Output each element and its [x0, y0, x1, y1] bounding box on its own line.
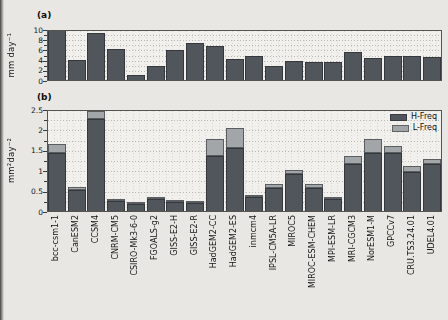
- y-minor-tick: [44, 35, 47, 36]
- l-freq-legend-label: L-Freq: [413, 123, 437, 133]
- bar-h-freq-UDEL4.01: [423, 164, 441, 212]
- bar-h-freq-CCSM4: [87, 119, 105, 212]
- bar-CSIRO-Mk3-6-0: [127, 75, 145, 81]
- bar-h-freq-HadGEM2-CC: [206, 156, 224, 212]
- bar-MPI-ESM-LR: [324, 62, 342, 81]
- bar-CCSM4: [87, 33, 105, 81]
- bar-l-freq-CCSM4: [87, 111, 105, 119]
- bar-FGOALS-g2: [147, 66, 165, 81]
- bar-l-freq-UDEL4.01: [423, 159, 441, 164]
- bar-l-freq-GISS-E2-R: [186, 201, 204, 203]
- bar-h-freq-CSIRO-Mk3-6-0: [127, 204, 145, 212]
- y-tick: [43, 40, 47, 41]
- y-tick: [43, 61, 47, 62]
- gridline: [48, 35, 441, 36]
- y-tick: [43, 50, 47, 51]
- x-tick-label-FGOALS-g2: FGOALS-g2: [150, 215, 160, 260]
- bar-h-freq-CNRM-CM5: [107, 201, 125, 212]
- x-tick-label-GPCCv7: GPCCv7: [387, 215, 397, 247]
- y-minor-tick: [44, 120, 47, 121]
- bar-h-freq-bcc-csm1-1: [48, 153, 66, 212]
- y-tick-label: 8: [3, 36, 43, 45]
- y-tick: [43, 71, 47, 72]
- bar-h-freq-HadGEM2-ES: [226, 148, 244, 212]
- bar-l-freq-MIROC5: [285, 170, 303, 174]
- bar-l-freq-MRI-CGCM3: [344, 156, 362, 164]
- bar-NorESM1-M: [364, 58, 382, 81]
- gridline: [48, 192, 441, 193]
- x-tick-label-MPI-ESM-LR: MPI-ESM-LR: [328, 215, 338, 262]
- x-tick-label-HadGEM2-ES: HadGEM2-ES: [229, 215, 239, 267]
- bar-h-freq-CRU.TS3.24.01: [403, 172, 421, 212]
- bar-IPSL-CM5A-LR: [265, 66, 283, 81]
- bar-h-freq-MPI-ESM-LR: [324, 199, 342, 212]
- x-tick-label-bcc-csm1-1: bcc-csm1-1: [51, 215, 61, 261]
- bar-l-freq-GISS-E2-H: [166, 200, 184, 202]
- bar-l-freq-NorESM1-M: [364, 139, 382, 153]
- bar-GISS-E2-R: [186, 43, 204, 81]
- y-tick-label: 0: [3, 77, 43, 86]
- bar-inmcm4: [245, 56, 263, 81]
- y-tick: [43, 30, 47, 31]
- x-tick-label-MRI-CGCM3: MRI-CGCM3: [348, 215, 358, 262]
- bar-h-freq-FGOALS-g2: [147, 199, 165, 212]
- y-tick-label: 6: [3, 46, 43, 55]
- bar-l-freq-FGOALS-g2: [147, 197, 165, 199]
- gridline: [48, 120, 441, 121]
- bar-HadGEM2-CC: [206, 46, 224, 81]
- bar-h-freq-MIROC5: [285, 174, 303, 212]
- gridline: [48, 171, 441, 172]
- bar-HadGEM2-ES: [226, 59, 244, 81]
- y-tick: [43, 81, 47, 82]
- y-tick: [43, 171, 47, 172]
- bar-l-freq-bcc-csm1-1: [48, 144, 66, 153]
- h-freq-swatch-icon: [390, 114, 407, 121]
- y-minor-tick: [44, 45, 47, 46]
- y-tick: [43, 192, 47, 193]
- bar-h-freq-MRI-CGCM3: [344, 164, 362, 212]
- bar-GISS-E2-H: [166, 50, 184, 81]
- bar-l-freq-CanESM2: [68, 187, 86, 190]
- gridline: [48, 40, 441, 41]
- y-minor-tick: [44, 66, 47, 67]
- gridline: [48, 45, 441, 46]
- x-tick-label-CRU.TS3.24.01: CRU.TS3.24.01: [407, 215, 417, 275]
- bar-MIROC5: [285, 61, 303, 81]
- bar-l-freq-IPSL-CM5A-LR: [265, 184, 283, 187]
- y-tick-label: 1.5: [3, 146, 43, 155]
- panel-b-plot-area: H-Freq L-Freq: [47, 110, 442, 212]
- bar-l-freq-HadGEM2-CC: [206, 139, 224, 155]
- bar-bcc-csm1-1: [48, 30, 66, 81]
- two-panel-bar-figure: (a) mm day⁻¹ (b) mm²day⁻² H-Freq L-Freq …: [0, 0, 448, 320]
- panel-b-label: (b): [37, 92, 52, 102]
- y-tick-label: 2.5: [3, 106, 43, 115]
- x-tick-label-CanESM2: CanESM2: [71, 215, 81, 253]
- l-freq-swatch-icon: [392, 125, 409, 132]
- bar-h-freq-GISS-E2-R: [186, 203, 204, 212]
- x-tick-label-CCSM4: CCSM4: [91, 215, 101, 243]
- gridline: [48, 161, 441, 162]
- gridline: [48, 181, 441, 182]
- legend: H-Freq L-Freq: [390, 112, 437, 134]
- bar-l-freq-HadGEM2-ES: [226, 128, 244, 147]
- bar-CNRM-CM5: [107, 49, 125, 81]
- bar-l-freq-MPI-ESM-LR: [324, 197, 342, 199]
- bar-UDEL4.01: [423, 57, 441, 81]
- y-tick: [43, 151, 47, 152]
- bar-h-freq-GPCCv7: [384, 153, 402, 212]
- y-tick-label: 10: [3, 26, 43, 35]
- bar-h-freq-IPSL-CM5A-LR: [265, 188, 283, 212]
- y-minor-tick: [44, 141, 47, 142]
- y-tick-label: 2: [3, 66, 43, 75]
- bar-CanESM2: [68, 60, 86, 81]
- bar-MIROC-ESM-CHEM: [305, 62, 323, 81]
- x-tick-label-HadGEM2-CC: HadGEM2-CC: [209, 215, 219, 268]
- x-tick-label-UDEL4.01: UDEL4.01: [427, 215, 437, 254]
- bar-GPCCv7: [384, 56, 402, 81]
- legend-row-l-freq: L-Freq: [390, 123, 437, 133]
- bar-l-freq-MIROC-ESM-CHEM: [305, 184, 323, 187]
- y-tick-label: 0.5: [3, 187, 43, 196]
- gridline: [48, 151, 441, 152]
- bar-MRI-CGCM3: [344, 52, 362, 81]
- legend-row-h-freq: H-Freq: [390, 112, 437, 122]
